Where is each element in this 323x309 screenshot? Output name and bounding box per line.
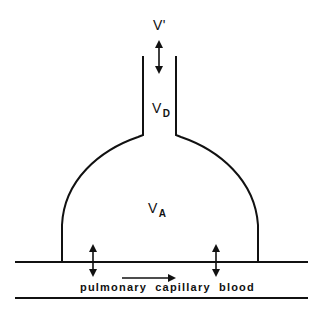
pulmonary-capillary-blood-label: pulmonary capillary blood — [80, 282, 255, 293]
ventilation-label: V' — [153, 17, 166, 33]
airway-and-alveolus-outline — [62, 56, 258, 262]
dead-space-label-sub: D — [163, 108, 170, 119]
alveolar-volume-label: VA — [148, 200, 166, 216]
ventilation-label-prime: ' — [163, 17, 166, 33]
lung-model-diagram: V' VD VA pulmonary capillary blood — [0, 0, 323, 309]
alveolar-label-main: V — [148, 200, 158, 216]
dead-space-label-main: V — [152, 100, 162, 116]
ventilation-label-main: V — [153, 17, 163, 33]
diagram-canvas — [0, 0, 323, 309]
dead-space-volume-label: VD — [152, 100, 170, 116]
alveolar-label-sub: A — [159, 208, 166, 219]
